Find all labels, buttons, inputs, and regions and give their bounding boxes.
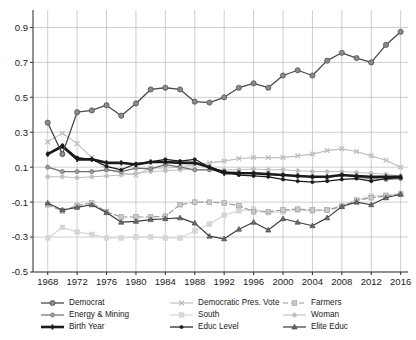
x-tick-label: 1988 [184, 276, 205, 287]
data-point [50, 300, 55, 305]
x-tick-label: 1992 [214, 276, 235, 287]
data-point [46, 153, 49, 156]
data-point [310, 73, 315, 78]
legend-label: South [198, 310, 220, 319]
data-point [251, 81, 256, 86]
legend-item-south[interactable]: South [170, 310, 220, 319]
x-tick-label: 2000 [272, 276, 293, 287]
data-point [383, 42, 388, 47]
y-tick-label: 0.3 [15, 127, 28, 138]
data-point [120, 160, 122, 165]
x-tick-labels: 1968197219761980198419881992199620002004… [37, 276, 411, 287]
y-tick-label: 0.7 [15, 57, 28, 68]
data-point [177, 87, 182, 92]
data-point [119, 215, 124, 220]
data-point [60, 175, 64, 179]
data-point [52, 324, 54, 329]
data-point [340, 178, 343, 181]
data-point [89, 232, 94, 237]
y-tick-label: 0.5 [15, 92, 28, 103]
data-point [236, 208, 241, 213]
legend-item-educ-level[interactable]: Educ Level [170, 322, 239, 331]
data-point [119, 113, 124, 118]
x-tick-label: 1996 [243, 276, 264, 287]
data-point [208, 166, 211, 169]
data-point [148, 87, 153, 92]
data-point [237, 203, 242, 208]
data-point [296, 169, 300, 173]
data-point [149, 160, 152, 163]
legend-item-birth-year[interactable]: Birth Year [41, 322, 105, 331]
data-point [75, 169, 79, 173]
data-point [295, 68, 300, 73]
data-point [326, 180, 329, 183]
data-point [148, 235, 153, 240]
data-point [164, 158, 167, 161]
data-point [326, 174, 328, 179]
x-tick-label: 2008 [331, 276, 352, 287]
data-point [119, 236, 124, 241]
x-tick-label: 1968 [37, 276, 58, 287]
data-point [384, 177, 387, 180]
x-tick-label: 1976 [96, 276, 117, 287]
data-point [280, 73, 285, 78]
x-tick-label: 2004 [302, 276, 323, 287]
data-point [222, 201, 227, 206]
data-point [178, 236, 183, 241]
data-point [120, 168, 123, 171]
legend-label: Woman [311, 310, 340, 319]
data-point [399, 176, 402, 179]
data-point [325, 58, 330, 63]
legend: DemocratEnergy & MiningBirth YearDemocra… [41, 298, 348, 331]
data-point [207, 222, 212, 227]
data-point [293, 313, 297, 317]
data-point [295, 207, 300, 212]
y-tick-label: -0.5 [12, 266, 28, 277]
legend-item-democratic-pres-vote[interactable]: Democratic Pres. Vote [170, 298, 280, 307]
legend-label: Democrat [69, 298, 105, 307]
legend-label: Educ Level [198, 322, 239, 331]
legend-item-democrat[interactable]: Democrat [41, 298, 105, 307]
data-point [398, 29, 403, 34]
data-point [325, 170, 329, 174]
data-point [369, 195, 374, 200]
data-point [237, 173, 240, 176]
data-point [310, 170, 314, 174]
data-point [341, 173, 343, 178]
legend-item-energy-mining[interactable]: Energy & Mining [41, 310, 130, 319]
data-point [297, 173, 299, 178]
chart-canvas: 0.90.70.50.30.1-0.1-0.3-0.5 196819721976… [0, 0, 416, 340]
legend-label: Birth Year [69, 322, 105, 331]
y-tick-label: -0.3 [12, 231, 28, 242]
legend-item-woman[interactable]: Woman [283, 310, 340, 319]
data-point [236, 85, 241, 90]
data-point [178, 202, 183, 207]
data-point [104, 168, 108, 172]
data-point [292, 301, 297, 306]
data-point [163, 169, 167, 173]
data-point [223, 170, 226, 173]
data-point [134, 235, 139, 240]
chart-figure: 0.90.70.50.30.1-0.1-0.3-0.5 196819721976… [0, 0, 416, 340]
data-point [105, 174, 109, 178]
data-point [251, 209, 256, 214]
y-tick-label: -0.1 [12, 197, 28, 208]
data-point [281, 168, 285, 172]
legend-item-elite-educ[interactable]: Elite Educ [283, 322, 348, 331]
data-point [339, 50, 344, 55]
data-point [76, 156, 79, 159]
data-point [310, 208, 315, 213]
legend-item-farmers[interactable]: Farmers [283, 298, 341, 307]
data-point [282, 173, 284, 178]
data-point [105, 165, 108, 168]
data-point [133, 101, 138, 106]
data-point [193, 158, 196, 161]
data-point [222, 213, 227, 218]
data-point [207, 100, 212, 105]
data-point [280, 216, 285, 221]
data-point [325, 208, 330, 213]
x-tick-label: 1972 [67, 276, 88, 287]
data-point [134, 171, 138, 175]
data-point [163, 85, 168, 90]
data-point [60, 152, 65, 157]
